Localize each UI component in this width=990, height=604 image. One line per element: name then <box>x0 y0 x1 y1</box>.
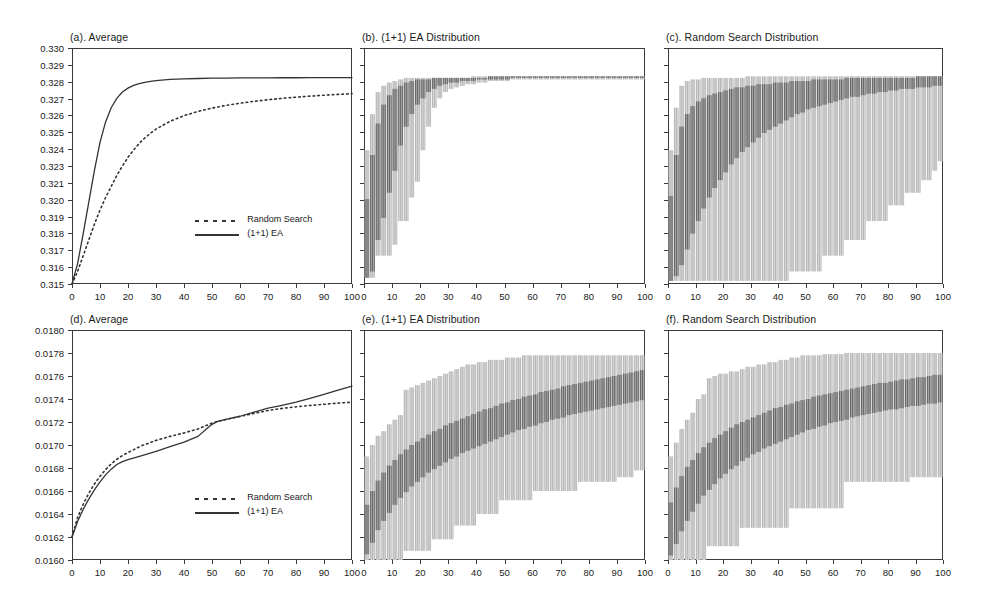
distribution-bar-inner <box>905 379 910 407</box>
distribution-bar-inner <box>729 428 734 469</box>
distribution-bar-inner <box>784 405 789 440</box>
distribution-bar-inner <box>866 385 871 414</box>
distribution-bar-outer <box>921 353 926 477</box>
distribution-bar-outer <box>894 353 899 482</box>
xtick-mark <box>833 560 834 564</box>
distribution-bar-inner <box>916 377 921 406</box>
distribution-bar-inner <box>921 377 926 405</box>
distribution-bar-inner <box>811 397 816 429</box>
distribution-bar-outer <box>899 353 904 482</box>
xtick-label: 50 <box>800 567 811 578</box>
distribution-bar-outer <box>905 353 910 482</box>
distribution-bar-inner <box>756 415 761 452</box>
xtick-label: 90 <box>910 567 921 578</box>
distribution-bar-outer <box>877 353 882 482</box>
distribution-bar-outer <box>916 353 921 477</box>
distribution-bar-inner <box>773 408 778 444</box>
xtick-mark <box>861 560 862 564</box>
distribution-bar-inner <box>850 389 855 418</box>
distribution-bar-outer <box>833 354 838 508</box>
distribution-bar-inner <box>696 453 701 504</box>
ytick-mark <box>664 399 668 400</box>
xtick-mark <box>943 560 944 564</box>
distribution-bar-inner <box>701 447 706 495</box>
distribution-bar-inner <box>740 422 745 461</box>
xtick-label: 0 <box>665 567 670 578</box>
distribution-bar-inner <box>828 393 833 423</box>
xtick-label: 30 <box>745 567 756 578</box>
distribution-bar-inner <box>883 383 888 411</box>
xtick-label: 10 <box>690 567 701 578</box>
distribution-bar-outer <box>861 353 866 482</box>
distribution-bar-inner <box>718 435 723 479</box>
xtick-label: 80 <box>883 567 894 578</box>
distribution-bar-outer <box>927 353 932 477</box>
distribution-bar-inner <box>762 413 767 449</box>
distribution-bar-inner <box>723 431 728 474</box>
ytick-mark <box>664 537 668 538</box>
distribution-bar-inner <box>888 382 893 410</box>
ytick-mark <box>664 422 668 423</box>
distribution-bar-outer <box>828 354 833 508</box>
distribution-bar-inner <box>822 394 827 425</box>
ytick-mark <box>664 376 668 377</box>
distribution-bar-inner <box>855 388 860 417</box>
distribution-bar-inner <box>806 399 811 430</box>
distribution-bar-inner <box>685 467 690 521</box>
ytick-mark <box>664 353 668 354</box>
xtick-mark <box>888 560 889 564</box>
distribution-bar-outer <box>932 353 937 477</box>
distribution-bar-outer <box>910 353 915 477</box>
distribution-bar-outer <box>866 353 871 482</box>
figure-canvas: (a). Average0.3300.3290.3280.3270.3260.3… <box>0 0 990 604</box>
distribution-bar-inner <box>844 390 849 420</box>
distribution-bar-inner <box>668 503 673 556</box>
distribution-bar-outer <box>872 353 877 482</box>
distribution-bar-inner <box>800 400 805 432</box>
distribution-bar-inner <box>778 407 783 442</box>
distribution-bar-inner <box>894 381 899 410</box>
distribution-bar-inner <box>767 411 772 447</box>
distribution-bar-inner <box>674 488 679 544</box>
distribution-bar-inner <box>932 375 937 404</box>
ytick-mark <box>664 468 668 469</box>
distribution-bar-inner <box>927 376 932 404</box>
xtick-mark <box>806 560 807 564</box>
distribution-bar-outer <box>778 360 783 528</box>
xtick-mark <box>723 560 724 564</box>
xtick-mark <box>778 560 779 564</box>
distribution-bar-inner <box>712 438 717 484</box>
distribution-bar-inner <box>707 443 712 490</box>
ytick-mark <box>664 514 668 515</box>
distribution-bar-inner <box>861 386 866 415</box>
distribution-bar-outer <box>883 353 888 482</box>
distribution-bar-inner <box>789 404 794 437</box>
panel-f: (f). Random Search Distribution010203040… <box>0 0 990 604</box>
distribution-bar-inner <box>679 476 684 531</box>
xtick-mark <box>916 560 917 564</box>
ytick-mark <box>664 330 668 331</box>
distribution-bar-inner <box>817 396 822 427</box>
plot-area-f <box>669 331 942 559</box>
xtick-mark <box>696 560 697 564</box>
distribution-bar-inner <box>839 391 844 421</box>
distribution-bar-inner <box>938 375 943 403</box>
distribution-bar-inner <box>690 460 695 512</box>
xtick-label: 40 <box>773 567 784 578</box>
distribution-bar-inner <box>910 378 915 406</box>
xtick-label: 20 <box>718 567 729 578</box>
ytick-mark <box>664 491 668 492</box>
xtick-mark <box>751 560 752 564</box>
xtick-label: 60 <box>828 567 839 578</box>
distribution-bar-outer <box>817 355 822 508</box>
distribution-bar-inner <box>734 424 739 465</box>
distribution-bar-inner <box>745 420 750 458</box>
distribution-bar-outer <box>773 362 778 528</box>
xtick-label: 70 <box>855 567 866 578</box>
distribution-bar-outer <box>855 353 860 482</box>
panel-title-f: (f). Random Search Distribution <box>666 313 816 325</box>
distribution-bar-outer <box>839 354 844 508</box>
distribution-bar-outer <box>938 353 943 477</box>
xtick-label: 100 <box>935 567 951 578</box>
distribution-bar-inner <box>899 379 904 408</box>
